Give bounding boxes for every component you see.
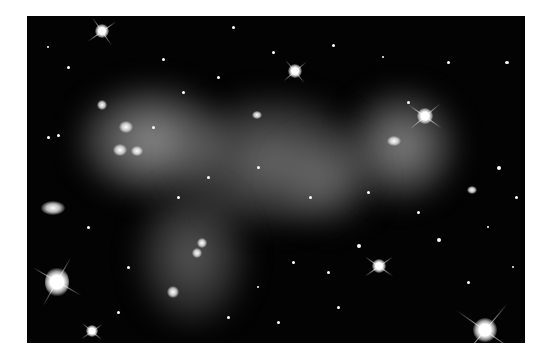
star [487, 226, 489, 228]
astronomical-image [27, 16, 525, 343]
star [232, 26, 235, 29]
star [182, 91, 185, 94]
star [467, 281, 470, 284]
star [47, 46, 49, 48]
star [177, 196, 180, 199]
galaxy [97, 100, 107, 110]
star [417, 211, 420, 214]
star [497, 166, 501, 170]
galaxy [167, 286, 179, 298]
star [207, 176, 210, 179]
star [367, 191, 370, 194]
star [117, 311, 120, 314]
star [357, 244, 361, 248]
star [437, 238, 441, 242]
star [447, 61, 450, 64]
star [257, 286, 259, 288]
star [277, 321, 280, 324]
star [227, 316, 230, 319]
star [407, 101, 410, 104]
star [152, 126, 155, 129]
star [505, 61, 509, 64]
star [272, 51, 275, 54]
star [87, 226, 90, 229]
star [47, 136, 50, 139]
galaxy [41, 201, 65, 215]
galaxy [467, 186, 477, 194]
galaxy [197, 238, 207, 248]
star [382, 56, 384, 58]
galaxy [192, 248, 202, 258]
star [309, 196, 312, 199]
galaxy [119, 121, 133, 133]
star [337, 306, 340, 309]
galaxy [113, 144, 127, 156]
star [67, 66, 70, 69]
diffuse-glow-bridge [277, 136, 377, 226]
star [57, 134, 60, 137]
galaxy [387, 136, 401, 146]
star [332, 44, 335, 47]
star [515, 196, 518, 199]
star [292, 261, 295, 264]
star [257, 166, 260, 169]
star [127, 266, 130, 269]
galaxy [252, 111, 262, 119]
galaxy [131, 146, 143, 156]
star [327, 271, 330, 274]
star [512, 266, 514, 268]
star [162, 58, 165, 61]
star [217, 76, 220, 79]
